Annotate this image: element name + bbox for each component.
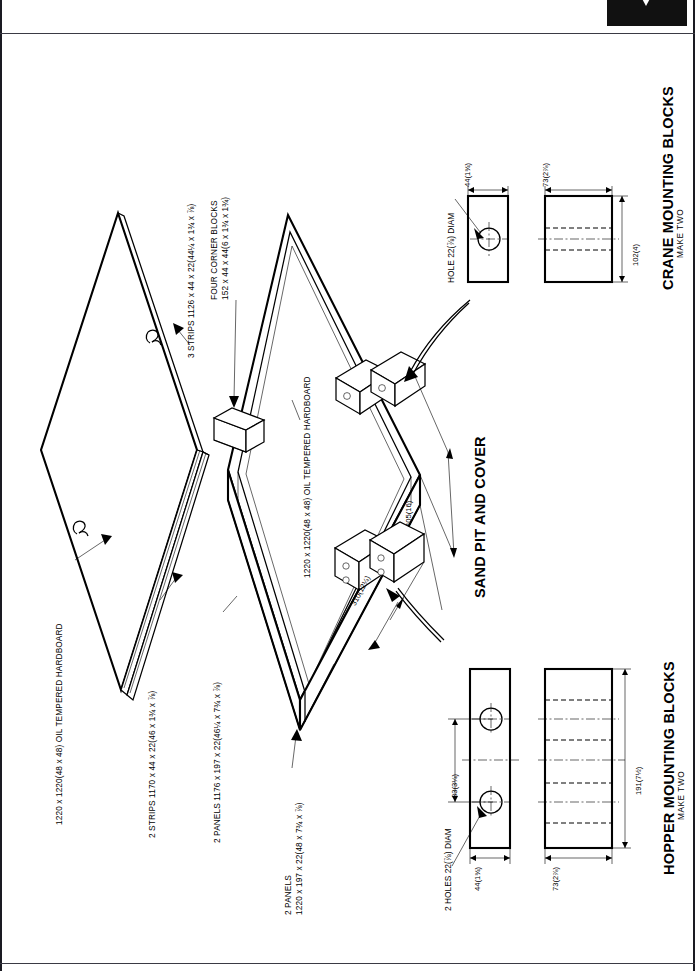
crane-block-subtitle: MAKE TWO: [676, 209, 686, 258]
cover-assembly: [41, 213, 209, 700]
crane-hole-note: HOLE 22(⅞) DIAM: [446, 213, 456, 283]
hopper-holes-note: 2 HOLES 22(⅞) DIAM: [443, 828, 453, 911]
note-base-panel: 1220 x 1220(48 x 48) OIL TEMPERED HARDBO…: [302, 376, 312, 578]
note-side-panels-1220-line1: 2 PANELS: [283, 875, 293, 915]
hopper-block-subtitle: MAKE TWO: [677, 771, 687, 820]
exploded-assembly-illustration: [0, 0, 695, 971]
note-corner-blocks-line2: 152 x 44 x 44(6 x 1¾ x 1¾): [220, 197, 230, 300]
sandpit-box: [228, 215, 420, 730]
assembly-arrow-lower: [386, 588, 444, 642]
note-side-panels-1220-line2: 1220 x 197 x 22(48 x 7¾ x ⅞): [294, 802, 304, 915]
crane-width-dim: 44(1¾): [463, 163, 472, 187]
hopper-hole-spacing-dim: 83(3¼): [450, 774, 459, 798]
main-title: SAND PIT AND COVER: [472, 436, 490, 598]
crane-depth-dim: 73(2⅞): [541, 163, 550, 187]
drawing-sheet: SAND PIT AND COVER 1220 x 1220(48 x 48) …: [0, 0, 695, 971]
hopper-block-detail: [448, 669, 631, 866]
dimension-405: 405(16): [404, 501, 413, 527]
crane-block-title: CRANE MOUNTING BLOCKS: [660, 86, 678, 290]
note-side-panels-1176: 2 PANELS 1176 x 197 x 22(46¼ x 7¾ x ⅞): [212, 682, 222, 843]
crane-block-detail: [455, 186, 628, 282]
note-cover-strips-2: 2 STRIPS 1170 x 44 x 22(46 x 1¾ x ⅞): [147, 691, 157, 838]
hopper-length-dim: 191(7½): [634, 767, 643, 795]
note-cover-panel: 1220 x 1220(48 x 48) OIL TEMPERED HARDBO…: [54, 623, 64, 825]
note-corner-blocks-line1: FOUR CORNER BLOCKS: [209, 200, 219, 300]
hopper-block-title: HOPPER MOUNTING BLOCKS: [661, 661, 679, 875]
hopper-width-dim: 44(1¾): [473, 867, 482, 891]
note-cover-strips-3: 3 STRIPS 1126 x 44 x 22(44¼ x 1¾ x ⅞): [186, 204, 196, 358]
hopper-depth-dim: 73(2⅞): [551, 867, 560, 891]
crane-length-dim: 102(4): [631, 244, 640, 266]
